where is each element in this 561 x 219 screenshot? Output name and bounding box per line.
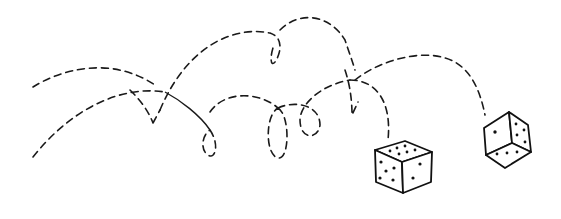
trajectory-arc-high [160,32,280,110]
trajectory-to-left-die [350,80,389,140]
right-die [484,112,531,168]
trajectory-arc-2 [210,96,278,112]
trajectory-lower-left [33,91,165,157]
left-die [375,141,432,193]
trajectory-loop-2 [268,108,287,158]
trajectory-to-right-die [355,55,485,115]
trajectory-solid-segment [165,92,210,130]
trajectory-v-drop [345,70,358,115]
trajectory-loop-3 [278,80,350,136]
trajectory-loop-1 [203,130,216,156]
right-die-left-pip [493,130,496,133]
trajectory-high-right [280,18,355,70]
trajectory-drop-v [130,90,160,123]
dice-illustration [0,0,561,219]
trajectory-upper-left [33,68,155,87]
